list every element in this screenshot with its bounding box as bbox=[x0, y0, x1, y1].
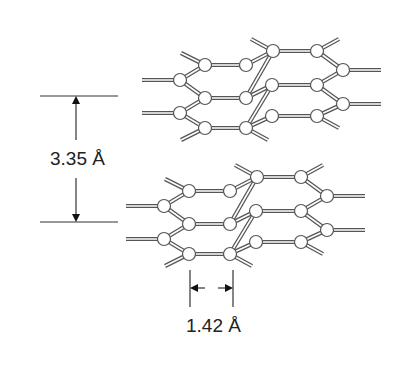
carbon-atom bbox=[183, 185, 196, 198]
carbon-atom bbox=[174, 107, 187, 120]
graphite-layers bbox=[126, 39, 381, 266]
carbon-atom bbox=[199, 92, 212, 105]
carbon-atom bbox=[250, 236, 263, 249]
carbon-atom bbox=[295, 171, 308, 184]
carbon-atom bbox=[311, 45, 324, 58]
bond-length-label: 1.42 Å bbox=[186, 315, 241, 337]
carbon-atom bbox=[174, 74, 187, 87]
carbon-atom bbox=[266, 110, 279, 123]
carbon-atom bbox=[158, 200, 171, 213]
carbon-atom bbox=[224, 185, 237, 198]
carbon-atom bbox=[311, 79, 324, 92]
carbon-atom bbox=[224, 218, 237, 231]
carbon-atom bbox=[199, 59, 212, 72]
carbon-atom bbox=[240, 59, 253, 72]
carbon-atom bbox=[240, 122, 253, 135]
carbon-atom bbox=[321, 190, 334, 203]
carbon-atom bbox=[321, 224, 334, 237]
carbon-atom bbox=[224, 248, 237, 261]
carbon-atom bbox=[199, 122, 212, 135]
carbon-atom bbox=[337, 64, 350, 77]
carbon-atom bbox=[183, 218, 196, 231]
carbon-atom bbox=[311, 110, 324, 123]
carbon-atom bbox=[240, 92, 253, 105]
carbon-atom bbox=[266, 79, 279, 92]
carbon-atom bbox=[295, 236, 308, 249]
carbon-atom bbox=[183, 248, 196, 261]
carbon-atom bbox=[337, 98, 350, 111]
carbon-atom bbox=[251, 171, 264, 184]
carbon-atom bbox=[267, 45, 280, 58]
carbon-atom bbox=[250, 205, 263, 218]
bond-length-dimension bbox=[190, 270, 233, 307]
carbon-atom bbox=[295, 205, 308, 218]
interlayer-spacing-label: 3.35 Å bbox=[50, 148, 105, 170]
carbon-atom bbox=[158, 233, 171, 246]
